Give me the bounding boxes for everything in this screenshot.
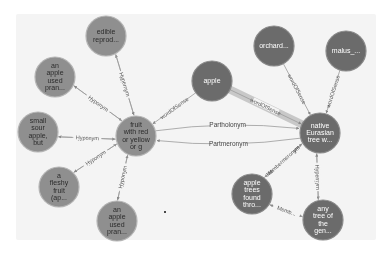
node-label-line: pran...: [45, 84, 65, 92]
edge-fruit-apple_used_top[interactable]: Hyponym: [74, 86, 122, 121]
edge-label: Hyponym: [87, 94, 110, 113]
node-any_tree[interactable]: anytree ofthegen...: [303, 200, 343, 240]
knowledge-graph[interactable]: HyponymHypernymHypernymHyponymHypernymHy…: [0, 0, 390, 253]
node-label-line: an: [51, 62, 59, 69]
stray-dot: [164, 211, 166, 213]
edge-label: Hyponym: [76, 134, 100, 141]
node-label-line: used: [109, 221, 124, 228]
node-small_sour[interactable]: smallsourapple,but: [18, 112, 58, 152]
node-label-line: the: [318, 220, 328, 227]
node-label-line: malus_...: [332, 47, 360, 55]
node-label-line: Eurasian: [306, 129, 334, 136]
node-label-line: thro...: [243, 201, 261, 208]
edge-orchard-native[interactable]: wordOfSense: [283, 64, 310, 115]
node-label-line: fruit: [53, 187, 65, 194]
node-label-line: pran...: [107, 228, 127, 236]
edge-label: Hypernym: [118, 71, 131, 97]
node-label-line: native: [311, 122, 330, 129]
edge-fruit-fleshy[interactable]: Hyponym: [74, 144, 117, 172]
node-fruit[interactable]: fruitwith redor yellowor g: [116, 116, 156, 156]
node-apple_trees[interactable]: appletreesfoundthro...: [232, 174, 272, 214]
node-label-line: tree w...: [308, 136, 333, 143]
node-label-line: an: [113, 206, 121, 213]
edge-label: Hyponym: [117, 165, 128, 189]
edge-label: wordOfSense: [286, 72, 307, 105]
node-label-line: small: [30, 117, 47, 124]
edge-fruit-native[interactable]: Partholonym: [156, 121, 299, 131]
edge-label: Hyponym: [84, 149, 107, 167]
node-label-line: tree of: [313, 212, 333, 219]
edge-label: Partholonym: [209, 121, 246, 129]
node-malus[interactable]: malus_...: [326, 31, 366, 71]
node-apple[interactable]: apple: [192, 61, 232, 101]
node-label-line: sour: [31, 124, 45, 131]
edge-apple_trees-native[interactable]: Membermeronym: [264, 144, 301, 178]
node-label-line: a: [57, 172, 61, 179]
edge-label: Memb...: [276, 205, 297, 218]
graph-canvas[interactable]: HyponymHypernymHypernymHyponymHypernymHy…: [0, 0, 390, 253]
node-label-line: edible: [97, 28, 116, 35]
edge-apple-fruit[interactable]: wordOfSense: [153, 93, 196, 124]
nodes-layer: fruitwith redor yellowor gediblereprod..…: [18, 16, 366, 241]
node-orchard[interactable]: orchard...: [254, 26, 294, 66]
edge-edible-fruit[interactable]: Hypernym: [116, 54, 134, 115]
edge-label: Partmeronym: [209, 140, 248, 148]
node-label-line: gen...: [314, 227, 332, 235]
node-label-line: but: [33, 139, 43, 146]
edge-any_tree-native[interactable]: Hypernym: [314, 154, 321, 200]
edge-fruit-apple_used_bottom[interactable]: Hyponym: [116, 155, 128, 200]
node-apple_used_top[interactable]: anappleusedpran...: [35, 57, 75, 97]
node-fleshy[interactable]: afleshyfruit(ap...: [39, 167, 79, 207]
node-label-line: fruit: [130, 121, 142, 128]
node-label-line: found: [243, 194, 261, 201]
edge-label: Hypernym: [314, 165, 321, 191]
edge-label: wordOfSense: [248, 96, 282, 116]
edge-malus-native[interactable]: wordOfSense: [325, 70, 341, 113]
node-apple_used_bottom[interactable]: anappleusedpran...: [97, 201, 137, 241]
node-label-line: reprod...: [93, 36, 119, 44]
edge-label: Membermeronym: [265, 144, 301, 178]
edge-label: wordOfSense: [158, 96, 189, 121]
edge-apple-native[interactable]: wordOfSense: [230, 90, 301, 124]
node-label-line: (ap...: [51, 194, 67, 202]
node-label-line: or g: [130, 143, 142, 151]
edge-fruit-small_sour[interactable]: Hyponym: [59, 134, 116, 141]
node-label-line: orchard...: [259, 42, 289, 49]
node-edible[interactable]: ediblereprod...: [86, 16, 126, 56]
node-label-line: trees: [244, 186, 260, 193]
edge-any_tree-apple_trees[interactable]: Memb...: [270, 203, 303, 218]
edge-label: wordOfSense: [325, 75, 341, 110]
edge-native-fruit[interactable]: Partmeronym: [157, 138, 300, 148]
node-label-line: with red: [123, 128, 149, 135]
node-native[interactable]: nativeEurasiantree w...: [300, 113, 340, 153]
node-label-line: used: [47, 77, 62, 84]
node-label-line: apple: [203, 77, 220, 85]
